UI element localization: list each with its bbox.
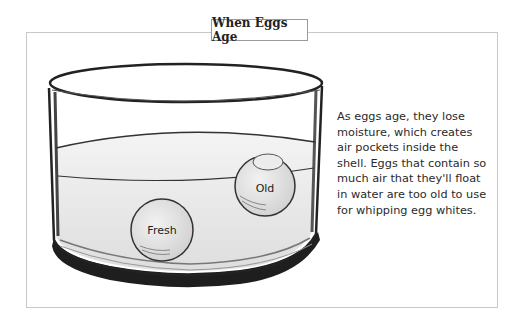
caption-line: air pockets inside the (337, 140, 507, 156)
caption-line: shell. Eggs that contain so (337, 156, 507, 172)
figure-title: When Eggs Age (211, 19, 308, 41)
bowl-rim (50, 64, 322, 102)
caption-line: in water are too old to use (337, 187, 507, 203)
bowl-illustration: Fresh Old (30, 50, 330, 300)
old-egg-label: Old (256, 182, 275, 195)
fresh-egg-label: Fresh (147, 224, 176, 237)
caption-line: for whipping egg whites. (337, 203, 507, 219)
caption-line: moisture, which creates (337, 125, 507, 141)
fresh-egg: Fresh (131, 199, 193, 261)
caption-line: As eggs age, they lose (337, 109, 507, 125)
caption-line: much air that they'll float (337, 171, 507, 187)
caption-text: As eggs age, they lose moisture, which c… (337, 109, 507, 218)
